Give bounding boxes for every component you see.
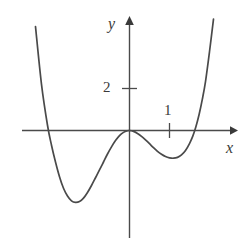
- x-axis-label: x: [226, 140, 233, 156]
- plot-canvas: [0, 0, 251, 242]
- x-tick-label-1: 1: [164, 103, 172, 118]
- y-axis-label: y: [108, 16, 115, 32]
- curve-path: [36, 19, 214, 202]
- y-axis-arrowhead-icon: [125, 16, 134, 25]
- x-axis-arrowhead-icon: [230, 126, 238, 135]
- y-axis: [125, 16, 134, 238]
- y-tick-label-2: 2: [103, 80, 111, 95]
- graph-figure: y x 2 1: [0, 0, 251, 242]
